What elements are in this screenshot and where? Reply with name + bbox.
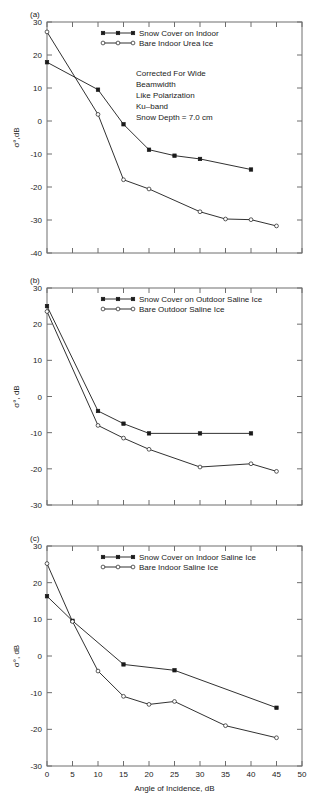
figure-root: -40-30-20-100102030σ°,dB(a)Snow Cover on… (0, 0, 318, 794)
data-point (198, 465, 202, 469)
legend-marker (131, 307, 135, 311)
series-line (47, 564, 277, 738)
x-tick-label: 50 (298, 770, 307, 779)
data-point (96, 424, 100, 428)
data-point (71, 620, 75, 624)
data-point (198, 210, 202, 214)
data-point (122, 422, 125, 425)
data-point (96, 669, 100, 673)
data-point (96, 409, 99, 412)
x-tick-label: 20 (145, 770, 154, 779)
data-point (45, 310, 49, 314)
legend-label: Bare Outdoor Saline Ice (139, 305, 225, 314)
data-point (173, 669, 176, 672)
legend-marker (101, 31, 104, 34)
legend-marker (116, 31, 119, 34)
data-point (96, 113, 100, 117)
annotation-line: Beamwidth (136, 80, 176, 89)
y-tick-label: 20 (33, 320, 42, 329)
panel-b-plot: -30-20-100102030σ°, dB(b)Snow Cover on O… (0, 268, 318, 524)
data-point (96, 88, 99, 91)
y-tick-label: 30 (33, 284, 42, 293)
y-tick-label: 0 (38, 393, 43, 402)
x-tick-label: 35 (221, 770, 230, 779)
legend-marker (101, 307, 105, 311)
data-point (147, 148, 150, 151)
y-tick-label: 10 (33, 356, 42, 365)
x-tick-label: 5 (70, 770, 75, 779)
data-point (147, 432, 150, 435)
annotation-line: Snow Depth = 7.0 cm (136, 113, 213, 122)
data-point (45, 304, 48, 307)
legend-label: Snow Cover on Outdoor Saline Ice (139, 295, 263, 304)
data-point (45, 562, 49, 566)
data-point (249, 168, 252, 171)
data-point (45, 30, 49, 34)
legend-marker (101, 555, 104, 558)
legend-label: Bare Indoor Urea Ice (139, 39, 214, 48)
series-line (47, 596, 277, 707)
data-point (249, 432, 252, 435)
legend-label: Snow Cover on Indoor (139, 29, 219, 38)
legend-marker (101, 41, 105, 45)
x-tick-label: 10 (94, 770, 103, 779)
y-tick-label: -30 (30, 501, 42, 510)
data-point (198, 157, 201, 160)
panel-a-plot: -40-30-20-100102030σ°,dB(a)Snow Cover on… (0, 0, 318, 268)
data-point (122, 436, 126, 440)
legend-marker (101, 297, 104, 300)
data-point (249, 462, 253, 466)
data-point (147, 187, 151, 191)
y-axis-title: σ°,dB (12, 127, 21, 147)
data-point (45, 61, 48, 64)
data-point (275, 706, 278, 709)
legend-marker (131, 31, 134, 34)
y-tick-label: 10 (33, 84, 42, 93)
data-point (122, 663, 125, 666)
series-line (47, 32, 277, 226)
legend-marker (131, 41, 135, 45)
y-tick-label: -20 (30, 183, 42, 192)
legend-marker (131, 565, 135, 569)
data-point (122, 694, 126, 698)
series-line (47, 306, 251, 433)
y-tick-label: -10 (30, 689, 42, 698)
legend-marker (116, 297, 119, 300)
y-tick-label: -10 (30, 150, 42, 159)
data-point (275, 224, 279, 228)
plot-frame (47, 22, 302, 253)
y-tick-label: -20 (30, 465, 42, 474)
y-tick-label: -30 (30, 216, 42, 225)
legend-marker (116, 307, 120, 311)
annotation-line: Corrected For Wide (136, 69, 206, 78)
x-tick-label: 15 (119, 770, 128, 779)
y-tick-label: 0 (38, 652, 43, 661)
panel-label: (a) (30, 10, 40, 19)
legend-marker (116, 555, 119, 558)
y-tick-label: 20 (33, 579, 42, 588)
y-axis-title: σ°, dB (12, 645, 21, 667)
y-tick-label: -30 (30, 762, 42, 771)
y-tick-label: 10 (33, 615, 42, 624)
legend-marker (131, 555, 134, 558)
panel-b: -30-20-100102030σ°, dB(b)Snow Cover on O… (0, 268, 318, 524)
data-point (224, 217, 228, 221)
panel-c: 05101520253035404550-30-20-100102030σ°, … (0, 524, 318, 794)
data-point (147, 703, 151, 707)
data-point (173, 154, 176, 157)
data-point (249, 218, 253, 222)
data-point (275, 736, 279, 740)
y-tick-label: -20 (30, 725, 42, 734)
x-axis-title: Angle of Incidence, dB (134, 784, 214, 793)
series-line (47, 312, 277, 472)
panel-c-plot: 05101520253035404550-30-20-100102030σ°, … (0, 524, 318, 794)
x-tick-label: 30 (196, 770, 205, 779)
legend-marker (116, 565, 120, 569)
y-axis-title: σ°, dB (12, 385, 21, 407)
y-tick-label: -40 (30, 249, 42, 258)
annotation-line: Like Polarization (136, 91, 195, 100)
data-point (224, 724, 228, 728)
y-tick-label: -10 (30, 429, 42, 438)
x-tick-label: 45 (272, 770, 281, 779)
x-tick-label: 40 (247, 770, 256, 779)
